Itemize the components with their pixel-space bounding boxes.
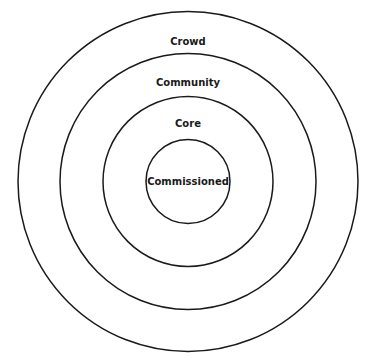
concentric-diagram: Crowd Community Core Commissioned <box>0 0 375 364</box>
label-crowd: Crowd <box>170 36 206 47</box>
label-commissioned: Commissioned <box>147 176 229 187</box>
label-core: Core <box>175 118 201 129</box>
label-community: Community <box>156 77 220 88</box>
